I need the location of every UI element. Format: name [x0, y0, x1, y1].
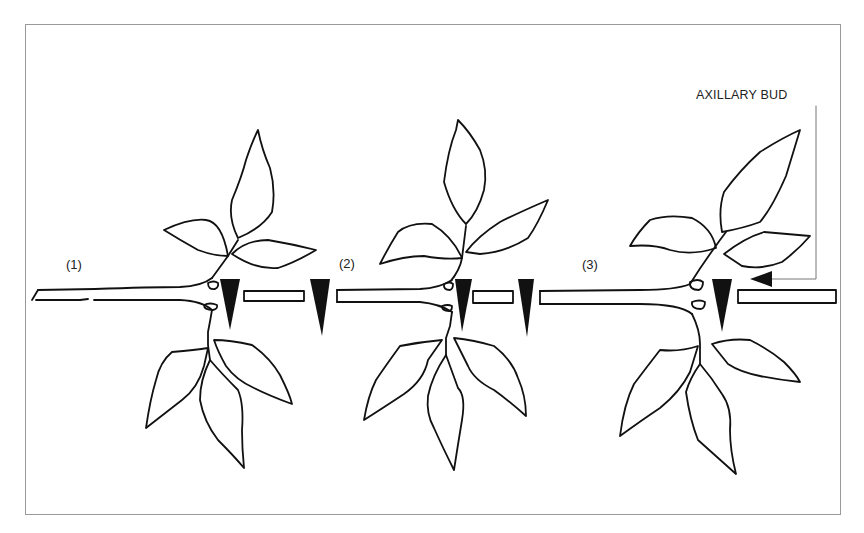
propagation-illustration — [0, 0, 864, 533]
cut-marker — [455, 279, 472, 332]
stem-segment — [473, 291, 513, 303]
cut-marker — [518, 279, 534, 337]
stem-segment — [244, 291, 304, 301]
panel-2-label: (2) — [339, 257, 355, 270]
panel-2-plant — [337, 120, 548, 470]
cut-marker — [712, 279, 732, 332]
cut-marker — [220, 279, 240, 330]
stem-segment — [738, 290, 836, 303]
axillary-bud-callout-label: AXILLARY BUD — [696, 89, 788, 102]
panel-3-label: (3) — [582, 258, 598, 271]
cut-marker — [310, 279, 330, 336]
panel-3-plant — [540, 130, 810, 474]
callout-arrow-icon — [750, 271, 772, 287]
panel-1-label: (1) — [66, 258, 82, 271]
panel-1-plant — [32, 130, 316, 468]
